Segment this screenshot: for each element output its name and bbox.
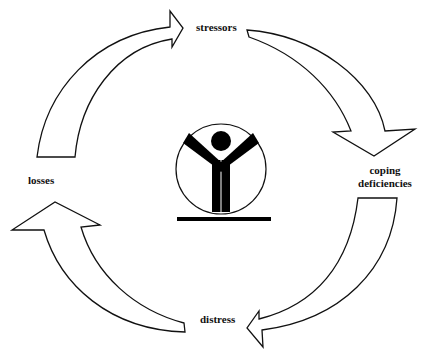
arrow-stressors-to-coping [247, 30, 415, 156]
arrow-distress-to-losses [12, 202, 185, 332]
node-label-losses: losses [28, 174, 54, 187]
node-label-coping-line1: coping [350, 164, 420, 177]
node-label-distress: distress [200, 313, 235, 326]
node-label-stressors: stressors [196, 21, 237, 34]
arrow-losses-to-stressors [37, 11, 183, 157]
node-label-coping-deficiencies: coping deficiencies [350, 164, 420, 190]
cycle-diagram: stressors coping deficiencies distress l… [0, 0, 424, 358]
person-in-circle-icon [176, 124, 271, 221]
node-label-coping-line2: deficiencies [350, 177, 420, 190]
